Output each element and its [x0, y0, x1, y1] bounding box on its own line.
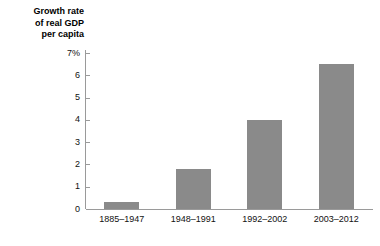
y-axis-label-1: 1 — [52, 182, 80, 191]
y-axis-label-2: 2 — [52, 160, 80, 169]
y-axis-label-text: 5 — [52, 93, 80, 102]
y-axis-label-3: 3 — [52, 138, 80, 147]
y-axis-label-text: 2 — [52, 160, 80, 169]
bar-1948–1991 — [176, 169, 211, 209]
y-axis-label-4: 4 — [52, 115, 80, 124]
x-axis-label-1992–2002: 1992–2002 — [229, 214, 301, 225]
plot-area — [86, 53, 372, 209]
chart-title-line-1: Growth rate — [6, 6, 84, 18]
y-axis-label-text: 4 — [52, 115, 80, 124]
x-axis-label-1885–1947: 1885–1947 — [86, 214, 158, 225]
y-axis-label-6: 6 — [52, 71, 80, 80]
chart-title-line-2: of real GDP — [6, 18, 84, 30]
bar-2003–2012 — [319, 64, 354, 209]
chart-title: Growth rate of real GDP per capita — [6, 6, 84, 41]
y-axis-label-0: 0 — [52, 205, 80, 214]
y-axis-label-text: 6 — [52, 71, 80, 80]
chart-title-line-3: per capita — [6, 29, 84, 41]
bar-1885–1947 — [104, 202, 139, 209]
y-axis-label-5: 5 — [52, 93, 80, 102]
x-axis-label-2003–2012: 2003–2012 — [301, 214, 373, 225]
bar-1992–2002 — [247, 120, 282, 209]
y-axis-label-text: 7% — [52, 49, 80, 58]
bar-chart-figure: Growth rate of real GDP per capita 01234… — [0, 0, 380, 246]
y-axis-label-text: 3 — [52, 138, 80, 147]
x-axis-line — [86, 209, 373, 210]
y-axis-tick-0 — [86, 209, 90, 210]
y-axis-label-7: 7% — [52, 49, 80, 58]
y-axis-label-text: 0 — [52, 205, 80, 214]
x-axis-label-1948–1991: 1948–1991 — [158, 214, 230, 225]
y-axis-label-text: 1 — [52, 182, 80, 191]
